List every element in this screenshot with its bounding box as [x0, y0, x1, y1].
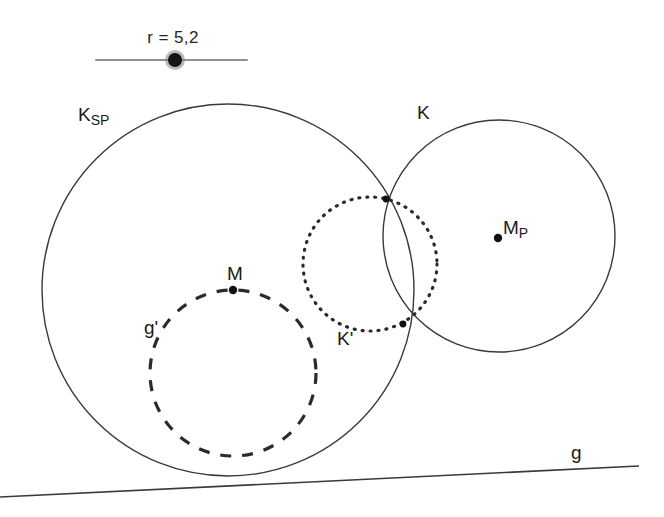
lines-group: [0, 466, 639, 497]
slider-value-label: r = 5,2: [88, 28, 258, 48]
circle-k-sp: [42, 104, 414, 476]
point-m-p: [494, 234, 502, 242]
label-line-g: g: [571, 443, 582, 462]
radius-slider[interactable]: r = 5,2: [88, 28, 258, 73]
label-point-m-p: MP: [503, 218, 528, 237]
label-m-p-sub: P: [519, 225, 528, 241]
label-m-p-main: M: [503, 217, 519, 238]
point-m: [229, 286, 237, 294]
label-k-sp-sub: SP: [91, 112, 110, 128]
slider-handle[interactable]: [168, 53, 182, 67]
circle-k-prime: [303, 197, 437, 331]
geometry-drawing: [0, 0, 664, 517]
label-circle-k: K: [417, 103, 430, 122]
point-intersection-bottom: [400, 321, 407, 328]
label-point-m: M: [227, 264, 243, 283]
label-circle-k-sp: KSP: [78, 105, 109, 124]
circles-group: [42, 104, 615, 476]
label-k-sp-main: K: [78, 104, 91, 125]
circle-g-prime: [150, 290, 316, 456]
point-intersection-top: [383, 196, 390, 203]
geometry-canvas-stage: KSP K MP M g' K' g r = 5,2: [0, 0, 664, 517]
line-g: [0, 466, 639, 497]
points-group: [229, 196, 502, 328]
label-circle-k-prime: K': [337, 329, 353, 348]
label-circle-g-prime: g': [144, 318, 158, 337]
